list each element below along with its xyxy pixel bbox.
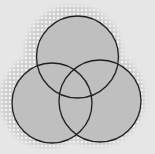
venn-diagram-graphic xyxy=(0,0,155,154)
venn-diagram xyxy=(0,0,155,154)
